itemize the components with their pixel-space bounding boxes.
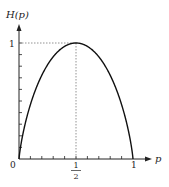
y-axis-arrow-icon	[17, 24, 22, 31]
half-numerator: 1	[74, 161, 79, 170]
y-axis-label: H(p)	[5, 9, 29, 20]
x-axis-label: p	[155, 153, 162, 164]
origin-label: 0	[10, 160, 16, 170]
x-tick-label-1: 1	[131, 160, 137, 170]
half-denominator: 2	[74, 172, 79, 181]
y-tick-label-1: 1	[9, 39, 15, 49]
entropy-chart: H(p) 1 0 1 p 1 2	[0, 0, 169, 187]
x-axis-arrow-icon	[145, 157, 152, 162]
